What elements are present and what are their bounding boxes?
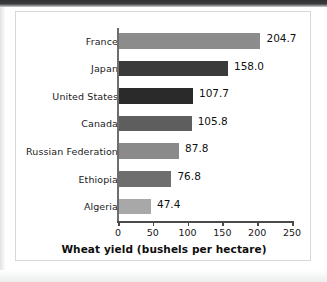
scan-top-strip — [0, 0, 327, 7]
bar-row: Ethiopia76.8 — [16, 166, 312, 192]
bar-value-label: 105.8 — [198, 115, 228, 127]
scan-bottom-edge — [0, 270, 327, 282]
bar-chart-plot-area: France204.7Japan158.0United States107.7C… — [16, 12, 312, 262]
category-label: Canada — [0, 118, 118, 129]
category-label: United States — [0, 91, 118, 102]
bar — [118, 116, 192, 132]
category-label: Russian Federation — [0, 146, 118, 157]
category-label: France — [0, 36, 118, 47]
x-axis-tick-label: 200 — [248, 227, 266, 238]
bar-row: United States107.7 — [16, 83, 312, 109]
x-axis-line — [117, 221, 292, 223]
bar — [118, 171, 171, 187]
x-axis-tick — [257, 221, 259, 226]
bar-row: France204.7 — [16, 28, 312, 54]
x-axis-tick-label: 0 — [115, 227, 121, 238]
category-label: Ethiopia — [0, 174, 118, 185]
bar-value-label: 107.7 — [199, 87, 229, 99]
x-axis-tick — [118, 221, 120, 226]
x-axis-tick-label: 250 — [283, 227, 301, 238]
scan-left-edge — [0, 7, 5, 282]
bar-value-label: 47.4 — [157, 198, 180, 210]
category-label: Algeria — [0, 201, 118, 212]
x-axis-tick-label: 50 — [147, 227, 159, 238]
bar-row: Russian Federation87.8 — [16, 138, 312, 164]
bar-row: Algeria47.4 — [16, 194, 312, 220]
y-axis-line — [117, 28, 119, 222]
x-axis-tick — [292, 221, 294, 226]
category-label: Japan — [0, 63, 118, 74]
bar — [118, 33, 260, 49]
bar — [118, 143, 179, 159]
bar-value-label: 158.0 — [234, 60, 264, 72]
x-axis-tick-label: 150 — [213, 227, 231, 238]
bar-row: Canada105.8 — [16, 111, 312, 137]
bar — [118, 199, 151, 215]
bar — [118, 61, 228, 77]
figure-panel: France204.7Japan158.0United States107.7C… — [15, 11, 311, 261]
x-axis-tick — [222, 221, 224, 226]
bar-value-label: 87.8 — [185, 142, 208, 154]
x-axis-tick-label: 100 — [179, 227, 197, 238]
bar-value-label: 204.7 — [266, 32, 296, 44]
x-axis-tick — [188, 221, 190, 226]
x-axis-tick — [153, 221, 155, 226]
bar — [118, 88, 193, 104]
bar-value-label: 76.8 — [177, 170, 200, 182]
bar-row: Japan158.0 — [16, 56, 312, 82]
x-axis-title: Wheat yield (bushels per hectare) — [16, 243, 312, 255]
